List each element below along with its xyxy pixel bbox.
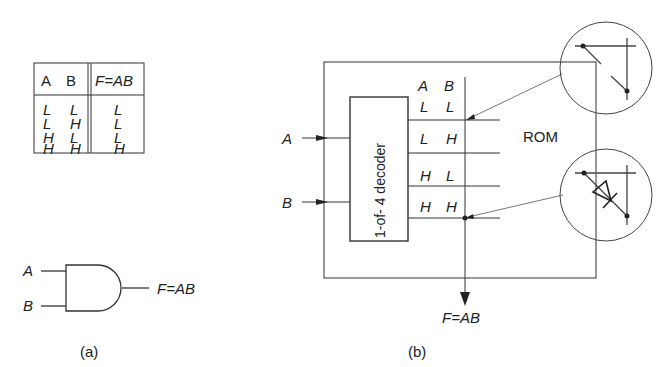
- magnified-no-diode: [560, 22, 652, 114]
- rom-input-lines: [302, 138, 350, 202]
- rom-cell: L: [446, 98, 454, 115]
- arrow-b-icon: [316, 199, 328, 205]
- arrow-a-icon: [316, 135, 328, 141]
- rom-input-b: B: [282, 194, 292, 211]
- rom-col-header: B: [444, 77, 454, 94]
- caption-b: (b): [408, 343, 426, 360]
- leader-arrow-icon: [466, 114, 475, 120]
- tt-header-b: B: [66, 72, 76, 89]
- rom-cell: H: [446, 198, 457, 215]
- rom-block: [324, 62, 596, 278]
- tt-cell: H: [43, 140, 54, 157]
- rom-cell: H: [420, 198, 431, 215]
- gate-input-a: A: [22, 262, 33, 279]
- decoder-label: 1-of- 4 decoder: [372, 143, 388, 238]
- diagram-canvas: A B F=AB L L L L H L H L L H H H A B F=A…: [0, 0, 669, 367]
- output-arrow-icon: [460, 292, 470, 306]
- diode-icon-node: [625, 214, 630, 219]
- diode-icon-node: [582, 171, 587, 176]
- caption-a: (a): [80, 343, 98, 360]
- gate-input-b: B: [23, 297, 33, 314]
- rom-input-a: A: [281, 130, 292, 147]
- rom-cell: L: [420, 130, 428, 147]
- rom-cell: L: [446, 167, 454, 184]
- rom-label: ROM: [523, 128, 558, 145]
- tt-cell: H: [114, 140, 125, 157]
- gate-output: F=AB: [157, 280, 195, 297]
- tt-header-a: A: [41, 72, 51, 89]
- rom-cell: H: [446, 130, 457, 147]
- tt-cell: H: [70, 140, 81, 157]
- and-gate-symbol: [41, 265, 149, 311]
- tt-header-f: F=AB: [95, 72, 133, 89]
- rom-output: F=AB: [442, 309, 480, 326]
- rom-col-header: A: [417, 77, 428, 94]
- rom-cell: H: [420, 167, 431, 184]
- magnified-diode: [560, 149, 652, 241]
- node-dot: [581, 44, 586, 49]
- rom-cell: L: [420, 98, 428, 115]
- leader-lines: [468, 74, 563, 217]
- node-dot: [625, 89, 630, 94]
